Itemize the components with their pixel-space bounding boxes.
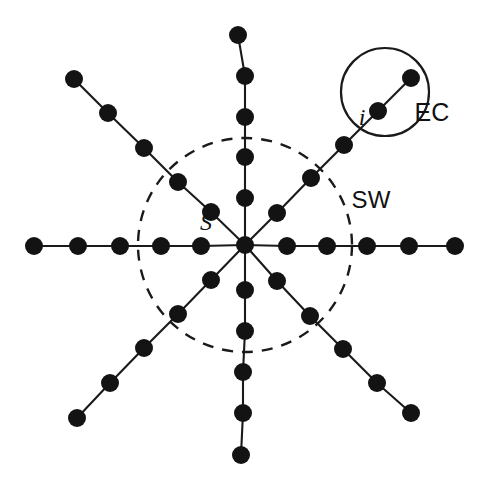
node-spoke-upper-right-1[interactable] [302, 169, 320, 187]
node-spoke-right-4[interactable] [446, 237, 464, 255]
node-spoke-upper-left-1[interactable] [169, 173, 187, 191]
node-spoke-right-3[interactable] [400, 237, 418, 255]
network-diagram-figure: SiSWEC [0, 0, 490, 487]
node-spoke-upper-left-2[interactable] [135, 139, 153, 157]
node-spoke-upper-left-4[interactable] [65, 70, 83, 88]
node-spoke-upper-right-4[interactable] [402, 69, 420, 87]
node-spoke-left-2[interactable] [111, 237, 129, 255]
label-i: i [359, 105, 366, 129]
node-spoke-upper-right-2[interactable] [335, 136, 353, 154]
node-spoke-upper-right-3[interactable] [369, 102, 387, 120]
node-spoke-up-2[interactable] [236, 108, 254, 126]
node-spoke-up-4[interactable] [229, 26, 247, 44]
node-spoke-down-4[interactable] [232, 446, 250, 464]
node-spoke-lower-left-4[interactable] [68, 409, 86, 427]
node-spoke-right-1[interactable] [318, 237, 336, 255]
node-spoke-lower-right-4[interactable] [402, 404, 420, 422]
node-spoke-left-0[interactable] [192, 237, 210, 255]
node-spoke-down-2[interactable] [234, 363, 252, 381]
node-spoke-left-1[interactable] [152, 237, 170, 255]
node-spoke-down-0[interactable] [236, 281, 254, 299]
label-ec: EC [414, 100, 449, 125]
node-spoke-up-1[interactable] [236, 148, 254, 166]
node-spoke-right-2[interactable] [358, 237, 376, 255]
node-spoke-lower-right-0[interactable] [268, 272, 286, 290]
node-spoke-lower-left-3[interactable] [101, 374, 119, 392]
node-spoke-lower-right-3[interactable] [368, 374, 386, 392]
label-sw: SW [351, 188, 390, 212]
node-spoke-lower-left-2[interactable] [135, 339, 153, 357]
node-spoke-lower-left-1[interactable] [169, 305, 187, 323]
node-spoke-up-3[interactable] [236, 67, 254, 85]
node-spoke-down-3[interactable] [234, 404, 252, 422]
node-spoke-lower-right-1[interactable] [301, 307, 319, 325]
node-spoke-left-4[interactable] [25, 237, 43, 255]
label-s: S [200, 210, 212, 234]
node-spoke-upper-left-3[interactable] [99, 104, 117, 122]
node-spoke-down-1[interactable] [236, 322, 254, 340]
node-spoke-right-0[interactable] [278, 237, 296, 255]
diagram-canvas [0, 0, 490, 487]
node-spoke-lower-left-0[interactable] [202, 271, 220, 289]
node-spoke-up-0[interactable] [236, 189, 254, 207]
node-spoke-lower-right-2[interactable] [334, 340, 352, 358]
node-spoke-left-3[interactable] [69, 237, 87, 255]
node-spoke-upper-right-0[interactable] [268, 204, 286, 222]
node-center[interactable] [236, 236, 254, 254]
